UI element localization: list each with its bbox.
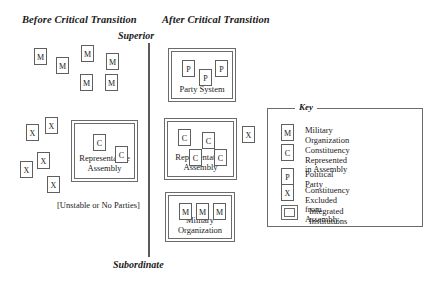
- key-row: Integrated Institutions: [281, 205, 347, 226]
- after-party-system[interactable]: Party System PPP: [168, 48, 236, 102]
- before-representative-assembly[interactable]: Representative Assembly CC: [71, 120, 138, 182]
- political-party-token[interactable]: P: [199, 69, 212, 86]
- represented-constituency-token[interactable]: C: [202, 132, 215, 149]
- key-row-label: Military Organization: [305, 124, 349, 145]
- heading-before-critical-transition: Before Critical Transition: [22, 14, 137, 25]
- key-title: Key: [295, 102, 317, 112]
- military-organization-token[interactable]: M: [80, 74, 93, 91]
- axis-label-superior: Superior: [118, 30, 154, 41]
- excluded-constituency-token[interactable]: X: [242, 126, 255, 143]
- excluded-constituency-token[interactable]: X: [37, 152, 50, 169]
- political-party-token[interactable]: P: [215, 60, 228, 77]
- before-unstable-note: [Unstable or No Parties]: [57, 200, 140, 210]
- represented-constituency-token[interactable]: C: [115, 146, 128, 163]
- key-token-icon: C: [281, 144, 294, 161]
- represented-constituency-token[interactable]: C: [189, 149, 202, 166]
- represented-constituency-token[interactable]: C: [214, 149, 227, 166]
- after-military-organization-inner: Military Organization MMM: [168, 195, 232, 239]
- represented-constituency-token[interactable]: C: [93, 134, 106, 151]
- political-party-token[interactable]: P: [182, 60, 195, 77]
- after-representative-assembly-inner: Representative Assembly CCCC: [167, 121, 234, 177]
- excluded-constituency-token[interactable]: X: [47, 176, 60, 193]
- integrated-institutions-icon: [281, 205, 298, 220]
- represented-constituency-token[interactable]: C: [178, 129, 191, 146]
- axis-label-subordinate: Subordinate: [113, 259, 164, 270]
- military-organization-token[interactable]: M: [56, 57, 69, 74]
- key-token-icon: X: [281, 184, 294, 201]
- after-party-system-inner: Party System PPP: [171, 51, 233, 99]
- military-organization-token[interactable]: M: [105, 74, 118, 91]
- integrated-institutions-icon-inner: [284, 208, 295, 217]
- vertical-axis-divider: [148, 43, 150, 257]
- key-token-icon: P: [281, 168, 294, 185]
- excluded-constituency-token[interactable]: X: [20, 161, 33, 178]
- key-row: MMilitary Organization: [281, 124, 349, 145]
- key-token-icon: M: [281, 124, 294, 141]
- excluded-constituency-token[interactable]: X: [45, 117, 58, 134]
- after-representative-assembly[interactable]: Representative Assembly CCCC: [164, 118, 237, 180]
- military-organization-token[interactable]: M: [213, 203, 226, 220]
- excluded-constituency-token[interactable]: X: [26, 124, 39, 141]
- heading-after-critical-transition: After Critical Transition: [162, 14, 270, 25]
- before-representative-assembly-inner: Representative Assembly CC: [74, 123, 135, 179]
- key-row-label: Integrated Institutions: [309, 205, 347, 226]
- diagram-canvas: Before Critical Transition After Critica…: [0, 0, 433, 286]
- military-organization-token[interactable]: M: [196, 203, 209, 220]
- military-organization-token[interactable]: M: [106, 53, 119, 70]
- after-military-organization[interactable]: Military Organization MMM: [165, 192, 235, 242]
- military-organization-token[interactable]: M: [34, 48, 47, 65]
- military-organization-token[interactable]: M: [81, 45, 94, 62]
- military-organization-token[interactable]: M: [179, 203, 192, 220]
